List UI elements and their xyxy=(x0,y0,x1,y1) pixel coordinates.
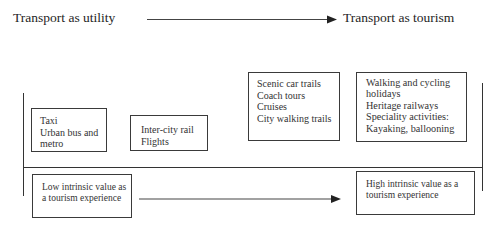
box-line: Urban bus and xyxy=(40,127,106,139)
high-value-line: tourism experience xyxy=(366,190,474,201)
box-utility-low: Taxi Urban bus and metro xyxy=(31,108,107,152)
box-line: Taxi xyxy=(40,115,106,127)
left-vertical-line xyxy=(23,93,24,196)
box-tourism-high: Walking and cycling holidays Heritage ra… xyxy=(356,72,467,142)
high-value-line: High intrinsic value as a xyxy=(366,179,474,190)
box-line: Flights xyxy=(141,136,207,148)
right-title: Transport as tourism xyxy=(343,10,454,26)
high-value-box: High intrinsic value as a tourism experi… xyxy=(356,171,475,215)
box-line: Speciality activities: xyxy=(366,111,466,122)
horizontal-divider xyxy=(23,167,483,168)
bottom-arrow xyxy=(139,194,349,206)
top-arrow xyxy=(147,14,347,26)
low-value-line: a tourism experience xyxy=(42,193,131,204)
box-line: City walking trails xyxy=(257,113,339,125)
low-value-box: Low intrinsic value as a tourism experie… xyxy=(32,174,132,218)
right-vertical-line xyxy=(482,83,483,191)
box-line: Cruises xyxy=(257,101,339,113)
box-line: Coach tours xyxy=(257,90,339,102)
low-value-line: Low intrinsic value as xyxy=(42,182,131,193)
box-line: holidays xyxy=(366,88,466,99)
box-line: Inter-city rail xyxy=(141,124,207,136)
box-utility-mid: Inter-city rail Flights xyxy=(130,115,208,151)
box-line: Heritage railways xyxy=(366,100,466,111)
box-line: Kayaking, ballooning xyxy=(366,123,466,134)
box-line: Scenic car trails xyxy=(257,78,339,90)
box-line: metro xyxy=(40,138,106,150)
left-title: Transport as utility xyxy=(13,10,115,26)
box-line: Walking and cycling xyxy=(366,77,466,88)
box-tourism-mid: Scenic car trails Coach tours Cruises Ci… xyxy=(248,72,340,141)
